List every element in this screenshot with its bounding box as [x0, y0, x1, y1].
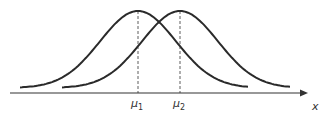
curve-distribution-1 — [20, 11, 248, 87]
normal-curves-diagram — [0, 0, 336, 116]
curve-distribution-2 — [62, 11, 290, 87]
x-axis-label: x — [312, 100, 319, 113]
mu1-label: μ1 — [131, 97, 143, 112]
mu2-label: μ2 — [173, 97, 185, 112]
x-axis-arrow-icon — [300, 90, 308, 97]
